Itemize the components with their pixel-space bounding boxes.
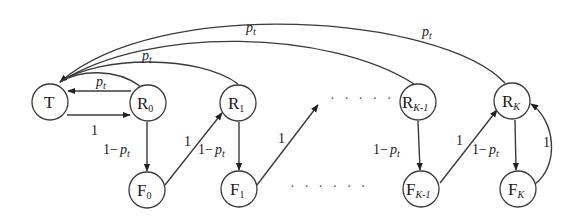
ellipsis-top: · · · · · · [330,91,408,106]
label-fk-to-rk: 1 [543,135,550,150]
state-diagram: pt pt pt pt 1 1−pt 1−pt 1−pt 1−pt 1 1 1 … [0,0,587,222]
node-f1: F1 [221,171,257,207]
label-r0-to-t: pt [95,74,106,91]
label-t-to-r0: 1 [91,123,98,138]
edge-rk-to-fk [515,120,516,170]
svg-text:T: T [44,93,55,112]
label-r0-to-f0: 1−pt [103,142,130,159]
label-rk-to-fk: 1−pt [472,142,499,159]
label-f0-to-r1: 1 [184,134,191,149]
edge-f0-to-r1 [165,113,222,185]
label-r1-to-t: pt [141,48,152,65]
label-rk-to-t: pt [421,24,432,41]
node-fk-minus-1: FK-1 [403,171,439,207]
node-f0: F0 [129,172,165,208]
node-r1: R1 [220,85,256,121]
node-r0: R0 [130,85,166,121]
label-rk1-to-t: pt [245,20,256,37]
label-fk1-to-rk: 1 [456,133,463,148]
node-rk-minus-1: RK-1 [400,84,436,120]
ellipsis-bottom: · · · · · · [290,179,368,194]
label-rk1-to-fk1: 1−pt [373,142,400,159]
node-fk: FK [500,171,536,207]
node-t: T [32,84,68,120]
label-r1-to-f1: 1−pt [198,142,225,159]
edge-rk1-to-fk1 [418,121,420,170]
edge-f1-to-next [257,105,318,185]
node-rk: RK [494,83,530,119]
label-f1-to-next: 1 [278,131,285,146]
edge-rk1-to-t [60,41,414,84]
